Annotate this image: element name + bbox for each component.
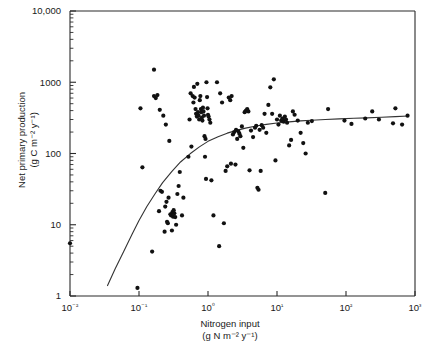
- y-tick-label: 1000: [40, 77, 61, 88]
- data-point: [205, 106, 209, 110]
- data-point: [164, 122, 168, 126]
- data-point: [258, 128, 262, 132]
- data-point: [235, 137, 239, 141]
- x-tick-label: 10²: [340, 302, 354, 314]
- figure-scatter-npp-vs-nitrogen: 10⁻²10⁻¹10⁰10¹10²10³ 110100100010,000 Ni…: [0, 0, 433, 357]
- data-point: [363, 116, 367, 120]
- data-point: [166, 221, 170, 225]
- data-point: [155, 93, 159, 97]
- data-point: [262, 112, 266, 116]
- data-point: [201, 109, 205, 113]
- data-point: [173, 215, 177, 219]
- x-tick-label: 10³: [409, 302, 423, 314]
- data-point: [228, 98, 232, 102]
- data-point: [276, 122, 280, 126]
- data-point: [174, 223, 178, 227]
- data-point: [225, 164, 229, 168]
- data-point: [195, 82, 199, 86]
- data-point: [287, 143, 291, 147]
- data-point: [241, 146, 245, 150]
- y-tick-label: 100: [45, 148, 61, 159]
- data-point: [209, 178, 213, 182]
- data-point: [189, 145, 193, 149]
- data-point: [177, 184, 181, 188]
- axis-frame: [70, 11, 415, 296]
- data-point: [240, 124, 244, 128]
- fit-curve: [108, 116, 409, 286]
- data-point: [186, 155, 190, 159]
- data-point: [175, 192, 179, 196]
- data-point: [198, 98, 202, 102]
- data-point: [166, 196, 170, 200]
- y-axis-title-line2: (g C m⁻² y⁻¹): [28, 50, 40, 230]
- data-point: [167, 139, 171, 143]
- x-tick-label: 10⁻¹: [131, 302, 149, 314]
- data-point: [285, 121, 289, 125]
- data-point: [215, 80, 219, 84]
- data-point: [163, 204, 167, 208]
- data-point: [273, 158, 277, 162]
- data-point: [256, 188, 260, 192]
- data-point: [326, 107, 330, 111]
- data-point: [393, 106, 397, 110]
- data-point: [180, 213, 184, 217]
- data-point: [251, 135, 255, 139]
- data-point: [218, 91, 222, 95]
- data-point: [152, 68, 156, 72]
- y-tick-label: 10: [50, 219, 61, 230]
- data-point: [229, 162, 233, 166]
- data-point: [158, 108, 162, 112]
- data-point: [275, 117, 279, 121]
- data-point: [247, 168, 251, 172]
- data-point: [233, 162, 237, 166]
- data-point: [150, 249, 154, 253]
- data-point: [191, 100, 195, 104]
- data-point: [204, 80, 208, 84]
- data-point: [391, 121, 395, 125]
- x-axis-title: Nitrogen input (g N m⁻² y⁻¹): [150, 318, 310, 342]
- data-point: [230, 94, 234, 98]
- data-point: [293, 113, 297, 117]
- y-axis-title-line1: Net primary production: [16, 50, 28, 230]
- data-point: [161, 114, 165, 118]
- data-point: [296, 118, 300, 122]
- data-point: [160, 190, 164, 194]
- data-point: [181, 196, 185, 200]
- data-point: [349, 122, 353, 126]
- data-point: [246, 109, 250, 113]
- data-point: [68, 241, 72, 245]
- fit-curve-path: [108, 116, 409, 286]
- data-point: [299, 131, 303, 135]
- x-tick-label: 10⁰: [201, 302, 215, 314]
- data-point: [289, 138, 293, 142]
- x-tick-label: 10⁻²: [62, 302, 80, 314]
- data-point: [164, 200, 168, 204]
- data-point: [220, 100, 224, 104]
- data-point: [217, 244, 221, 248]
- data-point: [170, 228, 174, 232]
- data-point: [198, 94, 202, 98]
- data-point: [342, 118, 346, 122]
- data-point: [157, 209, 161, 213]
- data-point: [323, 191, 327, 195]
- tick-marks: [70, 11, 415, 296]
- data-point: [266, 103, 270, 107]
- data-point: [261, 126, 265, 130]
- data-point: [304, 151, 308, 155]
- data-point: [211, 213, 215, 217]
- data-point: [203, 137, 207, 141]
- data-point: [138, 106, 142, 110]
- data-point: [222, 221, 226, 225]
- data-point: [310, 119, 314, 123]
- data-point: [370, 109, 374, 113]
- data-point: [200, 118, 204, 122]
- data-point: [205, 95, 209, 99]
- data-point: [405, 114, 409, 118]
- data-point: [202, 114, 206, 118]
- y-tick-label: 10,000: [32, 5, 61, 16]
- data-point: [203, 155, 207, 159]
- data-point: [178, 170, 182, 174]
- y-axis-title: Net primary production (g C m⁻² y⁻¹): [16, 50, 40, 230]
- data-point: [172, 211, 176, 215]
- x-axis-title-line1: Nitrogen input: [150, 318, 310, 330]
